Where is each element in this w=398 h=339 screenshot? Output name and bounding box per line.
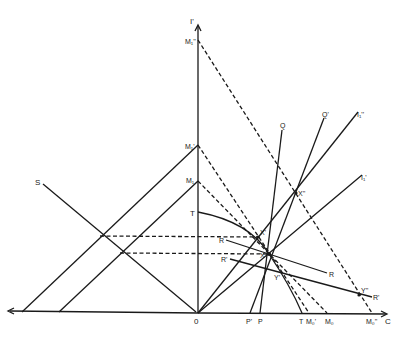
label-Yp: Y' [274,274,280,281]
ray-Q [260,130,282,313]
line-M1p-to-axis [22,145,198,312]
horizontal-axis-right [198,313,386,314]
label-R-end: R [329,271,334,278]
diagram-canvas: I' M₁'' M₁' M₁ T 0 P' P T M₀' M₀ M₀'' C … [0,0,398,339]
label-M0pp: M₀'' [366,318,377,325]
line-M1-to-axis [59,181,198,312]
label-P: P [258,318,263,325]
dashed-M1p-to-M0p [198,145,309,313]
label-Pp: P' [246,318,252,325]
label-I1p: I₁' [361,174,367,181]
label-Ypp: Y'' [361,287,368,294]
label-Q: Q [280,122,286,130]
label-M1: M₁ [186,177,195,184]
ray-I1pp [198,112,358,313]
dashed-M1pp-to-M0pp [198,40,372,313]
label-M1p: M₁' [185,143,195,150]
label-T-horizontal: T [299,318,304,325]
dashed-horizontal-upper [100,236,258,237]
label-origin: 0 [194,317,199,326]
label-Xp: X' [260,229,266,236]
line-S [43,184,196,312]
label-M0p: M₀' [306,318,316,325]
label-T-vertical: T [190,209,195,218]
label-I1pp: I₁'' [357,111,364,118]
label-S: S [35,178,40,187]
label-Xpp: X'' [298,190,305,197]
label-M0: M₀ [325,318,334,325]
curve-T [198,212,302,313]
horizontal-axis-left [10,311,198,313]
label-X: X [260,252,265,259]
label-R-start: R [219,237,224,244]
label-horizontal-axis: C [385,317,391,326]
label-Qp: Q' [322,111,329,119]
label-M1pp: M₁'' [185,38,196,45]
label-Rp-start: R' [221,256,227,263]
label-Rp-end: R' [373,294,379,301]
label-vertical-axis: I' [190,17,194,26]
point-X [267,252,271,256]
ray-I1p [198,175,362,313]
dashed-horizontal-lower [120,253,269,254]
